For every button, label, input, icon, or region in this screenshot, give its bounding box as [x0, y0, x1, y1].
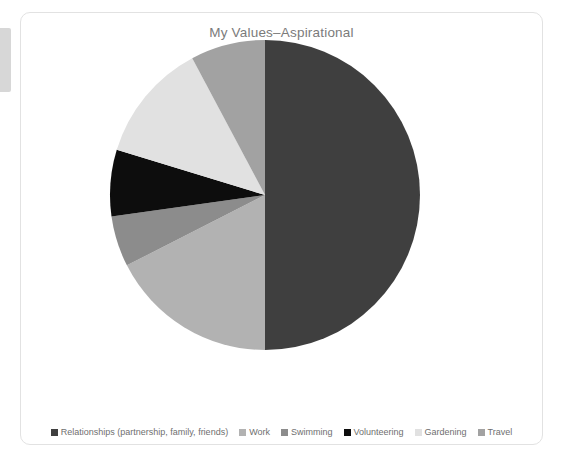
- legend-item[interactable]: Gardening: [415, 428, 467, 437]
- legend-item[interactable]: Relationships (partnership, family, frie…: [51, 428, 228, 437]
- legend-item-label: Work: [249, 428, 270, 437]
- left-edge-partial-panel: [0, 28, 11, 92]
- legend-item-label: Travel: [488, 428, 513, 437]
- chart-legend: Relationships (partnership, family, frie…: [21, 428, 542, 437]
- pie-chart-svg: [109, 39, 421, 351]
- legend-item-label: Relationships (partnership, family, frie…: [61, 428, 228, 437]
- legend-item[interactable]: Travel: [478, 428, 513, 437]
- legend-item[interactable]: Volunteering: [344, 428, 404, 437]
- pie-chart-plot-area: [21, 39, 542, 407]
- pie-slice-group: [110, 40, 420, 350]
- legend-swatch-icon: [239, 429, 246, 436]
- chart-title: My Values–Aspirational: [21, 25, 542, 40]
- legend-item[interactable]: Work: [239, 428, 270, 437]
- legend-swatch-icon: [51, 429, 58, 436]
- chart-card: My Values–Aspirational Relationships (pa…: [20, 12, 543, 445]
- legend-item[interactable]: Swimming: [281, 428, 333, 437]
- legend-item-label: Swimming: [291, 428, 333, 437]
- legend-swatch-icon: [478, 429, 485, 436]
- legend-swatch-icon: [281, 429, 288, 436]
- legend-swatch-icon: [344, 429, 351, 436]
- legend-item-label: Volunteering: [354, 428, 404, 437]
- legend-item-label: Gardening: [425, 428, 467, 437]
- pie-slice[interactable]: [265, 40, 420, 350]
- legend-swatch-icon: [415, 429, 422, 436]
